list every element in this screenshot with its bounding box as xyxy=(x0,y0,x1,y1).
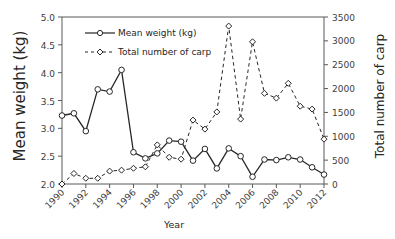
carp-data-point xyxy=(142,164,148,170)
x-tick-label: 2008 xyxy=(258,187,281,210)
left-tick-label: 2.0 xyxy=(41,180,56,190)
right-tick-label: 3000 xyxy=(332,36,355,46)
x-tick-label: 1990 xyxy=(43,187,66,210)
left-tick-label: 3.0 xyxy=(41,124,56,134)
weight-data-point xyxy=(274,157,280,163)
weight-data-point xyxy=(238,153,244,159)
carp-data-point xyxy=(71,171,77,177)
x-tick-label: 1994 xyxy=(91,187,114,210)
carp-data-point xyxy=(321,136,327,142)
weight-data-point xyxy=(95,87,101,93)
x-tick-label: 2010 xyxy=(281,187,304,210)
carp-data-point xyxy=(83,175,89,181)
carp-data-point xyxy=(214,109,220,115)
right-axis-title: Total number of carp xyxy=(373,34,387,159)
carp-data-point xyxy=(166,154,172,160)
weight-data-point xyxy=(154,151,160,157)
right-tick-label: 1500 xyxy=(332,108,355,118)
x-tick-label: 2002 xyxy=(186,187,209,210)
carp-data-point xyxy=(226,23,232,29)
left-tick-label: 4.5 xyxy=(41,41,55,51)
left-tick-label: 5.0 xyxy=(41,13,56,23)
right-tick-label: 2500 xyxy=(332,60,355,70)
dual-axis-line-chart: 2.02.53.03.54.04.55.0 050010001500200025… xyxy=(0,0,395,239)
weight-data-point xyxy=(226,146,232,152)
x-axis-title: Year xyxy=(163,219,184,230)
right-tick-label: 500 xyxy=(332,156,349,166)
left-tick-label: 2.5 xyxy=(41,152,55,162)
right-tick-label: 3500 xyxy=(332,13,355,23)
circle-marker-icon xyxy=(97,30,102,35)
weight-data-point xyxy=(321,172,327,178)
weight-data-point xyxy=(262,157,268,163)
weight-data-point xyxy=(297,157,303,163)
weight-data-point xyxy=(285,154,291,160)
weight-data-point xyxy=(83,128,89,134)
carp-data-point xyxy=(178,156,184,162)
legend: Mean weight (kg) Total number of carp xyxy=(85,28,212,57)
carp-data-point xyxy=(261,90,267,96)
right-tick-label: 1000 xyxy=(332,132,355,142)
carp-data-point xyxy=(309,106,315,112)
legend-label: Mean weight (kg) xyxy=(118,28,197,38)
carp-data-point xyxy=(238,116,244,122)
x-tick-label: 1996 xyxy=(115,187,138,210)
weight-data-point xyxy=(166,138,172,144)
weight-data-point xyxy=(178,139,184,145)
weight-data-point xyxy=(309,165,315,171)
legend-item-total-carp: Total number of carp xyxy=(85,47,212,57)
weight-data-point xyxy=(190,158,196,164)
left-tick-label: 3.5 xyxy=(41,97,55,107)
x-tick-label: 2012 xyxy=(305,187,328,210)
weight-data-point xyxy=(214,166,220,172)
carp-data-point xyxy=(95,175,101,181)
right-axis-ticks: 0500100015002000250030003500 xyxy=(324,13,355,190)
right-tick-label: 0 xyxy=(332,180,338,190)
carp-data-point xyxy=(119,167,125,173)
left-axis-title: Mean weight (kg) xyxy=(11,31,29,162)
weight-data-point xyxy=(107,89,113,95)
carp-data-point xyxy=(250,39,256,45)
weight-data-point xyxy=(250,174,256,180)
legend-label: Total number of carp xyxy=(117,47,212,57)
carp-data-point xyxy=(107,168,113,174)
weight-data-point xyxy=(59,113,65,119)
weight-data-point xyxy=(202,146,208,152)
right-tick-label: 2000 xyxy=(332,84,355,94)
x-tick-label: 1998 xyxy=(138,187,161,210)
legend-item-mean-weight: Mean weight (kg) xyxy=(85,28,197,38)
weight-data-point xyxy=(131,149,137,155)
weight-data-point xyxy=(119,67,125,73)
weight-data-point xyxy=(71,111,77,117)
diamond-marker-icon xyxy=(97,49,103,55)
left-tick-label: 4.0 xyxy=(41,69,56,79)
carp-data-point xyxy=(130,165,136,171)
weight-data-point xyxy=(143,156,149,162)
left-axis-ticks: 2.02.53.03.54.04.55.0 xyxy=(41,13,62,190)
x-axis-ticks: 1990199219941996199820002002200420062008… xyxy=(43,184,328,211)
carp-data-point xyxy=(297,103,303,109)
x-tick-label: 2006 xyxy=(234,187,257,210)
x-tick-label: 2004 xyxy=(210,187,233,210)
x-tick-label: 2000 xyxy=(162,187,185,210)
x-tick-label: 1992 xyxy=(67,187,90,210)
